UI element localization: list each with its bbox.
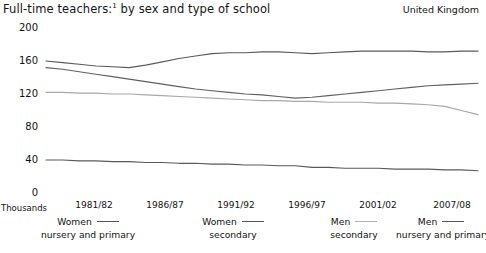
legend-item-men-secondary: Men secondary: [298, 216, 410, 241]
y-axis-tick-label: 80: [4, 122, 38, 132]
legend-label-line2: nursery and primary: [396, 229, 486, 242]
series-line-women-nursery-and-primary: [46, 51, 478, 68]
legend-label-line2: secondary: [168, 229, 298, 242]
x-axis-tick-label: 2001/02: [348, 200, 408, 210]
y-axis-tick-label: 160: [4, 56, 38, 66]
chart-figure: Full-time teachers:1 by sex and type of …: [0, 0, 486, 253]
legend-label-line1: Men: [418, 216, 437, 227]
legend-label-line1: Women: [57, 216, 92, 227]
series-line-men-nursery-and-primary: [46, 160, 478, 171]
legend-label-line1: Men: [331, 216, 350, 227]
x-axis-tick-label: 2007/08: [422, 200, 482, 210]
legend-label-line1: Women: [202, 216, 237, 227]
x-axis-tick-label: 1981/82: [64, 200, 124, 210]
y-axis-tick-label: 40: [4, 155, 38, 165]
x-axis-tick-label: 1991/92: [206, 200, 266, 210]
legend-swatch-women-nursery-primary: [97, 221, 119, 222]
y-axis-units-label: Thousands: [1, 203, 47, 213]
legend-label-line2: nursery and primary: [8, 229, 168, 242]
x-axis-tick-label: 1986/87: [135, 200, 195, 210]
y-axis-tick-label: 200: [4, 23, 38, 33]
legend-label-line2: secondary: [298, 229, 410, 242]
y-axis-tick-label: 120: [4, 89, 38, 99]
legend-swatch-men-secondary: [355, 221, 377, 222]
legend-item-women-nursery-primary: Women nursery and primary: [8, 216, 168, 241]
chart-legend: Women nursery and primary Women secondar…: [0, 216, 486, 252]
legend-swatch-men-nursery-primary: [442, 221, 464, 222]
legend-item-women-secondary: Women secondary: [168, 216, 298, 241]
x-axis-tick-label: 1996/97: [277, 200, 337, 210]
y-axis-tick-label: 0: [4, 188, 38, 198]
legend-swatch-women-secondary: [242, 221, 264, 222]
legend-item-men-nursery-primary: Men nursery and primary: [396, 216, 486, 241]
series-line-men-secondary: [46, 92, 478, 114]
